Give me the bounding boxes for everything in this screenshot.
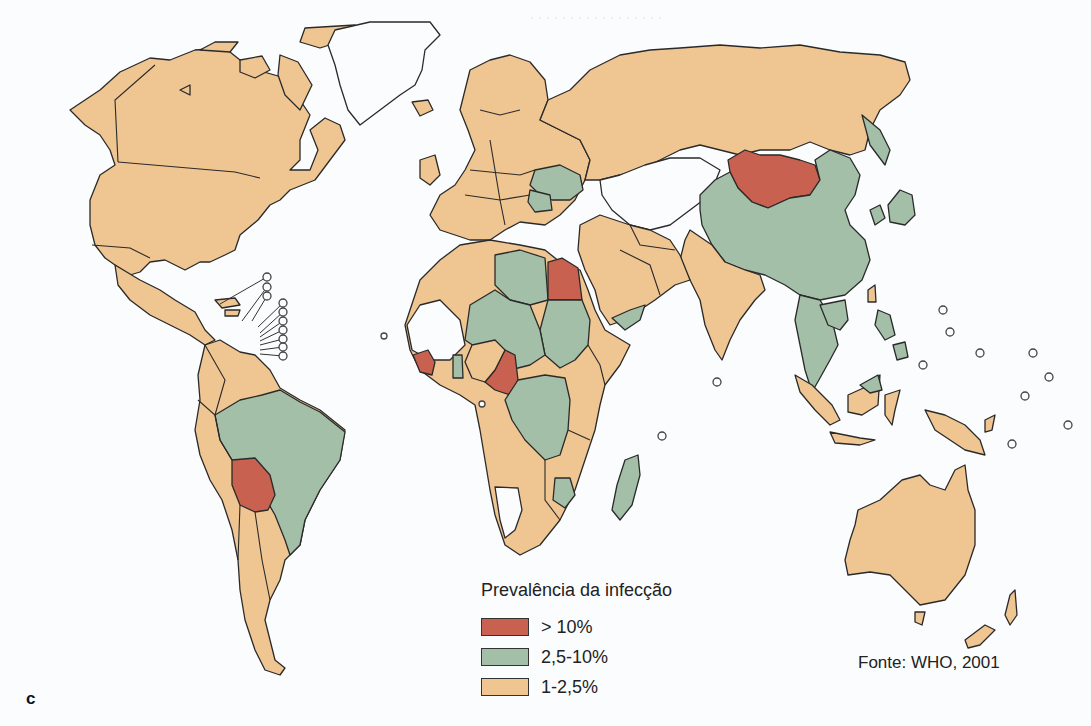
- legend-label-low: 1-2,5%: [541, 677, 598, 698]
- asia: [540, 45, 995, 455]
- europe: [420, 55, 590, 240]
- legend-item-low: 1-2,5%: [481, 675, 672, 699]
- legend-label-high: > 10%: [541, 617, 593, 638]
- legend-swatch-low: [481, 678, 529, 696]
- legend-swatch-high: [481, 618, 529, 636]
- south-america: [195, 340, 345, 675]
- north-america: [70, 22, 440, 275]
- legend-label-medium: 2,5-10%: [541, 647, 608, 668]
- legend-swatch-medium: [481, 648, 529, 666]
- legend-item-high: > 10%: [481, 615, 672, 639]
- oceania: [845, 465, 1017, 648]
- source-credit: Fonte: WHO, 2001: [858, 653, 1000, 673]
- legend-title: Prevalência da infecção: [481, 580, 672, 601]
- panel-label: c: [26, 689, 35, 709]
- central-america: [115, 265, 240, 345]
- legend-item-medium: 2,5-10%: [481, 645, 672, 669]
- legend: Prevalência da infecção > 10% 2,5-10% 1-…: [481, 580, 672, 705]
